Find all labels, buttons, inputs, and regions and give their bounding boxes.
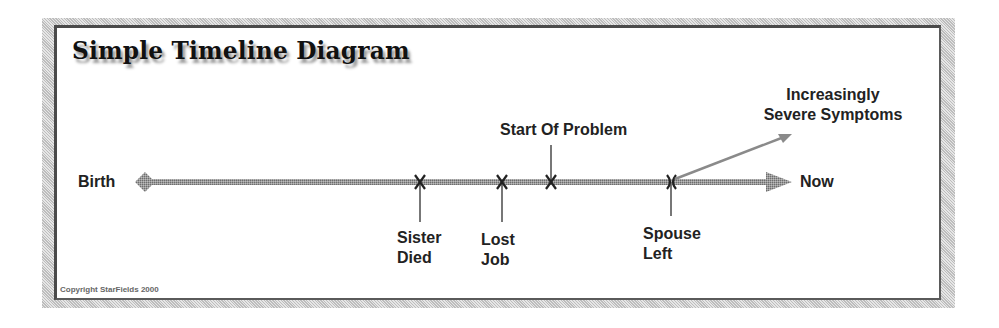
event-label-sister-died: Sister Died [397,228,441,268]
birth-label: Birth [78,172,115,192]
birth-diamond-icon [135,172,155,192]
now-label: Now [800,172,834,192]
timeline-graphic [0,0,999,328]
copyright-text: Copyright StarFields 2000 [60,285,159,294]
event-label-spouse-left: Spouse Left [643,224,701,264]
now-arrowhead-icon [766,172,792,192]
event-label-start-of-problem: Start Of Problem [500,120,627,140]
timeline-axis [150,179,770,185]
event-label-lost-job: Lost Job [481,230,515,270]
annotation-severe-symptoms: Increasingly Severe Symptoms [748,85,918,125]
